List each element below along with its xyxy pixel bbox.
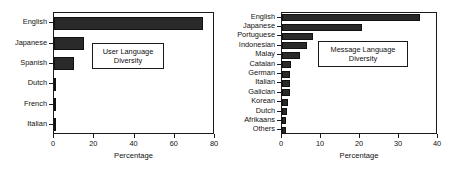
bar xyxy=(282,117,286,124)
bar xyxy=(282,71,290,78)
y-axis-label: Japanese xyxy=(1,39,47,46)
x-axis-tick xyxy=(320,134,321,138)
y-axis-label: Malay xyxy=(227,50,275,57)
chart-annotation-box: User LanguageDiversity xyxy=(92,43,164,69)
y-axis-label: Others xyxy=(227,125,275,132)
y-axis-label: Galician xyxy=(227,88,275,95)
y-axis-label: Indonesian xyxy=(227,41,275,48)
bar xyxy=(282,14,420,21)
x-axis-tick-label: 10 xyxy=(305,140,335,147)
y-axis-label: Afrikaans xyxy=(227,116,275,123)
y-axis-label: Catalan xyxy=(227,60,275,67)
y-axis-label: Korean xyxy=(227,97,275,104)
x-axis-tick xyxy=(134,134,135,138)
y-axis-label: Dutch xyxy=(1,79,47,86)
chart-message-language-diversity: EnglishJapanesePortugueseIndonesianMalay… xyxy=(228,0,456,180)
x-axis-tick-label: 30 xyxy=(383,140,413,147)
x-axis-tick-label: 20 xyxy=(344,140,374,147)
y-axis-label: Italian xyxy=(227,78,275,85)
chart-annotation-line: Message Language xyxy=(331,45,396,54)
bar xyxy=(282,108,287,115)
plot-area xyxy=(281,12,437,134)
y-axis-label: French xyxy=(1,100,47,107)
bar xyxy=(54,98,56,111)
x-axis-tick-label: 0 xyxy=(266,140,296,147)
bar xyxy=(54,118,56,131)
y-axis-label: Spanish xyxy=(1,59,47,66)
x-axis-tick-label: 40 xyxy=(119,140,149,147)
y-axis-label: Japanese xyxy=(227,22,275,29)
bar xyxy=(282,127,286,134)
x-axis-tick-label: 0 xyxy=(38,140,68,147)
x-axis-tick xyxy=(398,134,399,138)
x-axis-tick-label: 40 xyxy=(422,140,452,147)
bars-layer xyxy=(54,13,213,133)
x-axis-tick xyxy=(437,134,438,138)
x-axis-tick-label: 60 xyxy=(159,140,189,147)
chart-annotation-line: Diversity xyxy=(114,56,142,65)
chart-annotation-line: Diversity xyxy=(349,54,377,63)
bars-layer xyxy=(282,13,436,133)
x-axis-tick xyxy=(281,134,282,138)
bar xyxy=(54,37,84,50)
plot-area xyxy=(53,12,214,134)
x-axis-tick xyxy=(214,134,215,138)
x-axis-tick-label: 20 xyxy=(78,140,108,147)
bar xyxy=(54,78,56,91)
bar xyxy=(282,33,313,40)
y-axis-label: German xyxy=(227,69,275,76)
x-axis-tick xyxy=(174,134,175,138)
figure-canvas: EnglishJapaneseSpanishDutchFrenchItalian… xyxy=(0,0,456,180)
x-axis-tick xyxy=(359,134,360,138)
bar xyxy=(282,42,307,49)
chart-annotation-box: Message LanguageDiversity xyxy=(318,41,408,67)
bar xyxy=(282,80,290,87)
chart-user-language-diversity: EnglishJapaneseSpanishDutchFrenchItalian… xyxy=(0,0,228,180)
x-axis-title: Percentage xyxy=(53,152,214,160)
bar xyxy=(282,99,288,106)
x-axis-title: Percentage xyxy=(281,152,437,160)
x-axis-tick xyxy=(93,134,94,138)
bar xyxy=(54,57,74,70)
bar xyxy=(282,89,290,96)
chart-annotation-line: User Language xyxy=(103,47,154,56)
bar xyxy=(54,17,203,30)
y-axis-label: English xyxy=(227,13,275,20)
y-axis-label: Portuguese xyxy=(227,31,275,38)
y-axis-label: Italian xyxy=(1,120,47,127)
bar xyxy=(282,52,300,59)
y-axis-label: English xyxy=(1,18,47,25)
x-axis-tick xyxy=(53,134,54,138)
x-axis-tick-label: 80 xyxy=(199,140,229,147)
bar xyxy=(282,61,291,68)
bar xyxy=(282,24,362,31)
y-axis-label: Dutch xyxy=(227,107,275,114)
